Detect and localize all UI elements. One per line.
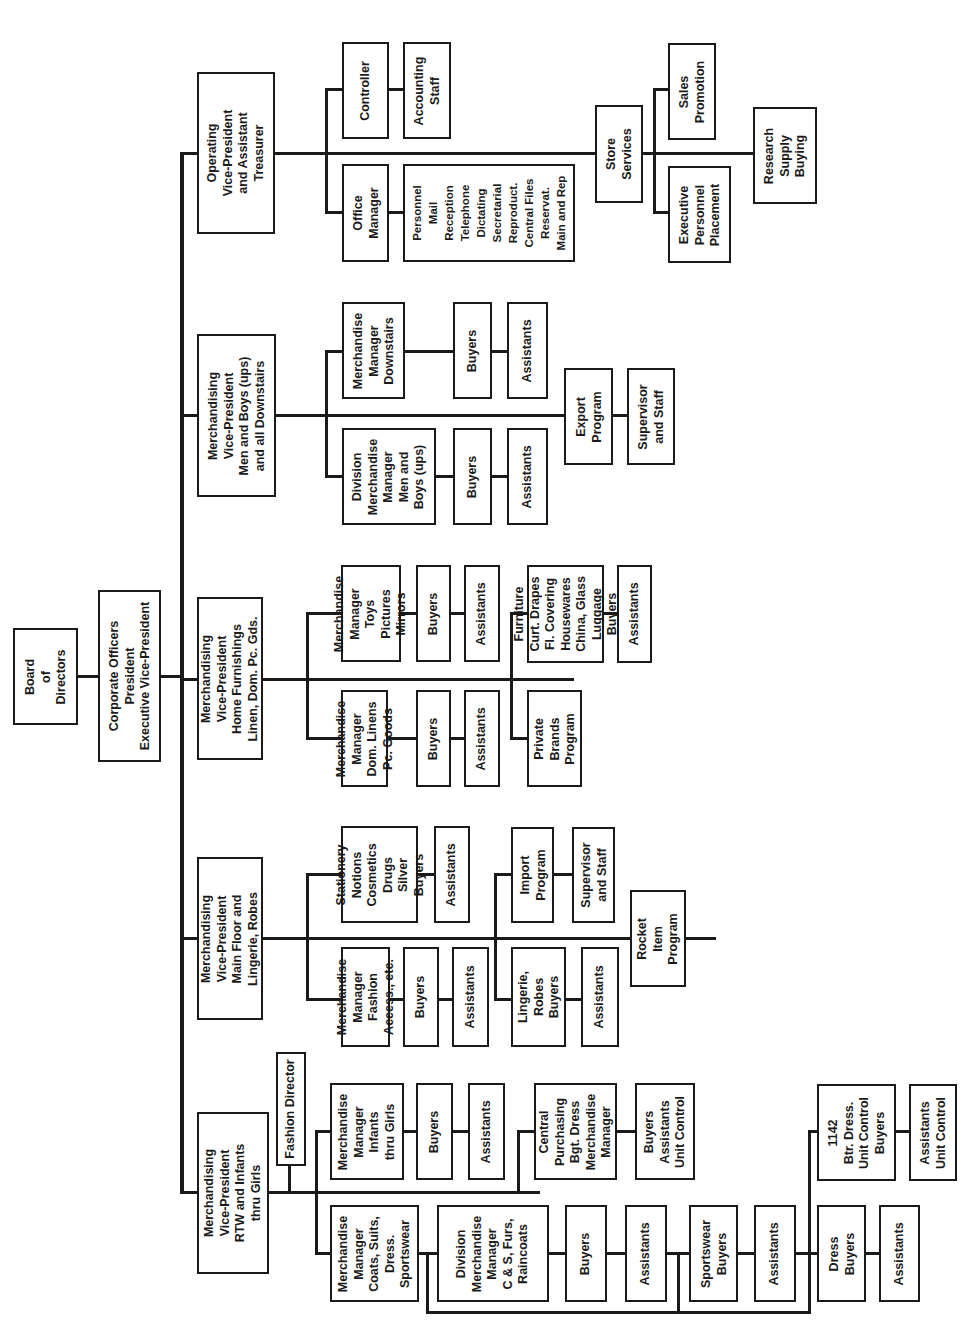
node-rocket-item: Rocket Item Program	[630, 890, 686, 987]
connector-spine-vp-home	[180, 678, 198, 681]
rtw-to-central-purchasing	[517, 1130, 535, 1133]
node-vp-home: Merchandising Vice-President Home Furnis…	[197, 597, 263, 760]
node-office-services: Personnel Mail Reception Telephone Dicta…	[403, 164, 575, 262]
node-assistants-linens: Assistants	[464, 690, 500, 787]
btr-to-assistants	[895, 1130, 909, 1133]
operating-to-controller	[325, 88, 343, 91]
dress-branch-vertical	[808, 1130, 811, 1314]
home-to-private-brands	[510, 737, 528, 740]
node-stationery-buyers: Stationery Notions Cosmetics Drugs Silve…	[341, 826, 418, 923]
store-services-to-research	[642, 152, 754, 155]
linens-buyers-to-assistants	[450, 737, 465, 740]
node-mm-toys: Merchandise Manager Toys Pictures Mirror…	[341, 565, 401, 662]
men-branch-vertical	[325, 350, 328, 478]
store-services-to-sales	[653, 88, 669, 91]
node-buyers-infants: Buyers	[416, 1083, 453, 1180]
node-corporate-officers: Corporate Officers President Executive V…	[98, 590, 161, 762]
node-buyers-toys: Buyers	[416, 565, 451, 662]
node-import-program: Import Program	[511, 827, 554, 923]
rtw-branch-vertical	[315, 1130, 318, 1255]
node-furniture-buyers: Furniture Curt. Drapes Fl. Covering Hous…	[527, 565, 604, 663]
infants-buyers-to-assistants	[452, 1130, 469, 1133]
connector-spine-vp-men	[180, 414, 198, 417]
node-assistants-toys: Assistants	[464, 565, 500, 662]
toys-buyers-to-assistants	[450, 612, 465, 615]
operating-to-office-manager	[325, 211, 343, 214]
node-cp-staff: Buyers Assistants Unit Control	[635, 1083, 695, 1180]
node-assistants-lingerie: Assistants	[581, 947, 619, 1047]
lingerie-to-assistants	[565, 998, 582, 1001]
home-branch-vertical	[306, 612, 309, 740]
downstairs-buyers-to-assistants	[491, 350, 508, 353]
node-store-services: Store Services	[595, 105, 643, 203]
dmm-coats-to-buyers	[548, 1252, 566, 1255]
downstairs-to-buyers	[404, 350, 454, 353]
node-research-supply: Research Supply Buying	[753, 107, 817, 204]
node-office-manager: Office Manager	[342, 164, 389, 262]
node-btr-dress: 1142 Btr. Dress. Unit Control Buyers	[817, 1084, 896, 1181]
node-mm-linens: Merchandise Manager Dom. Linens Pc. Good…	[341, 690, 388, 787]
node-assistants-stationery: Assistants	[434, 826, 470, 923]
import-to-staff	[553, 873, 573, 876]
rtw-cp-vertical	[517, 1130, 520, 1193]
export-to-staff	[612, 414, 628, 417]
dmm-men-to-buyers	[435, 475, 454, 478]
office-manager-to-services	[388, 211, 404, 214]
infants-to-buyers	[403, 1130, 417, 1133]
node-lingerie-buyers: Lingerie, Robes Buyers	[511, 947, 566, 1047]
connector-board-corporate	[77, 675, 99, 678]
men-buyers-to-assistants	[491, 475, 508, 478]
node-mm-fashion: Merchandise Manager Fashion Access., etc…	[341, 947, 390, 1047]
store-services-to-exec	[653, 211, 669, 214]
cp-to-staff	[616, 1130, 636, 1133]
node-mm-coats: Merchandise Manager Coats, Suits, Dress.…	[330, 1205, 419, 1302]
node-buyers-fashion: Buyers	[403, 947, 439, 1047]
controller-to-accounting	[388, 88, 404, 91]
node-export-staff: Supervisor and Staff	[627, 368, 675, 465]
node-assistants-downstairs: Assistants	[507, 302, 548, 399]
node-mm-downstairs: Merchandise Manager Downstairs	[342, 302, 405, 399]
sportswear-to-assistants	[737, 1252, 755, 1255]
node-dmm-men: Division Merchandise Manager Men and Boy…	[342, 428, 436, 525]
men-main-line	[275, 414, 565, 417]
rtw-to-mm-infants	[315, 1130, 331, 1133]
node-vp-men: Merchandising Vice-President Men and Boy…	[197, 334, 276, 497]
node-central-purchasing: Central Purchasing Bgt. Dress Merchandis…	[534, 1083, 617, 1180]
main-programs-vertical	[494, 873, 497, 1001]
node-buyers-downstairs: Buyers	[453, 302, 492, 399]
main-to-import	[494, 873, 512, 876]
node-assistants-furniture: Assistants	[617, 565, 652, 663]
node-assistants-sportswear: Assistants	[754, 1205, 796, 1302]
node-assistants-infants: Assistants	[468, 1083, 505, 1180]
fashion-buyers-to-assistants	[438, 998, 453, 1001]
node-mm-infants: Merchandise Manager Infants thru Girls	[330, 1083, 404, 1180]
node-vp-main: Merchandising Vice-President Main Floor …	[197, 857, 263, 1020]
node-accounting-staff: Accounting Staff	[403, 42, 451, 139]
operating-main-line	[275, 152, 595, 155]
rtw-to-mm-coats	[315, 1252, 331, 1255]
fashion-director-connector	[288, 1164, 291, 1192]
node-assistants-btr: Assistants Unit Control	[909, 1084, 957, 1181]
node-buyers-men: Buyers	[453, 428, 492, 525]
node-dmm-coats: Division Merchandise Manager C & S, Furs…	[437, 1205, 549, 1302]
operating-branch-vertical	[325, 88, 328, 214]
coats-loop-vertical	[426, 1252, 429, 1314]
node-buyers-linens: Buyers	[416, 690, 451, 787]
store-services-branch-vertical	[653, 88, 656, 214]
rtw-main-line	[268, 1191, 540, 1194]
connector-corporate-spine	[160, 675, 182, 678]
node-assistants-coats: Assistants	[625, 1205, 667, 1302]
node-buyers-coats: Buyers	[565, 1205, 607, 1302]
node-export-program: Export Program	[564, 368, 613, 465]
connector-spine-vp-operating	[180, 152, 198, 155]
spine-vertical	[180, 152, 184, 1194]
men-to-mm-downstairs	[325, 350, 343, 353]
sportswear-vertical	[677, 1252, 680, 1314]
connector-spine-vp-rtw	[180, 1191, 198, 1194]
node-board-of-directors: Board of Directors	[13, 628, 78, 725]
men-to-dmm-men	[325, 475, 343, 478]
sportswear-assistants-to-dress	[795, 1252, 817, 1255]
main-to-lingerie	[494, 998, 512, 1001]
node-dress-buyers: Dress Buyers	[817, 1205, 866, 1302]
connector-spine-vp-main	[180, 937, 198, 940]
